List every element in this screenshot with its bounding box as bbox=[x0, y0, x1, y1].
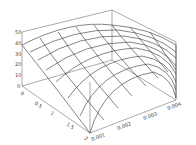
x-axis-ticks: 0 0.5 1 1.5 2 bbox=[19, 90, 89, 142]
svg-text:20: 20 bbox=[15, 61, 21, 67]
svg-text:0.5: 0.5 bbox=[33, 100, 43, 109]
svg-text:50: 50 bbox=[15, 29, 21, 35]
svg-text:0: 0 bbox=[17, 83, 20, 89]
svg-text:0: 0 bbox=[19, 90, 25, 97]
svg-text:1.5: 1.5 bbox=[65, 121, 75, 130]
svg-text:40: 40 bbox=[15, 40, 21, 46]
z-axis-ticks: 50 40 30 20 10 0 bbox=[15, 29, 21, 89]
y-axis-ticks: 0.001 0.002 0.003 0.004 bbox=[90, 100, 182, 142]
surface-plot: 50 40 30 20 10 0 0 0.5 1 1.5 2 0.001 0.0… bbox=[0, 0, 196, 145]
svg-text:10: 10 bbox=[15, 72, 21, 78]
svg-text:2: 2 bbox=[83, 135, 89, 142]
svg-text:0.001: 0.001 bbox=[90, 131, 106, 142]
svg-text:1: 1 bbox=[49, 110, 55, 117]
svg-text:30: 30 bbox=[15, 51, 21, 57]
svg-text:0.004: 0.004 bbox=[166, 100, 182, 111]
